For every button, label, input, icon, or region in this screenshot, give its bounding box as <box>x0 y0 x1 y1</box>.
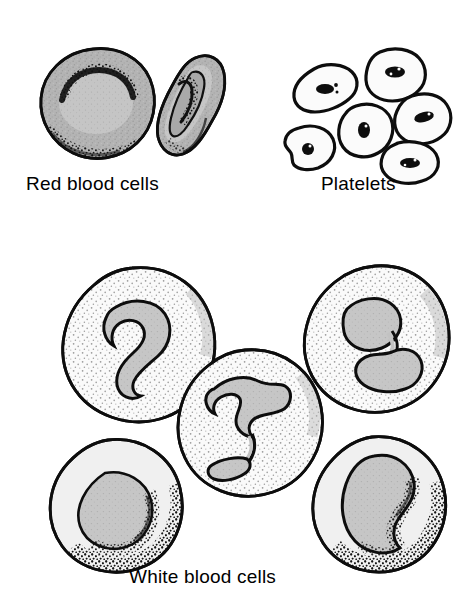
white-blood-cells-group <box>50 266 449 573</box>
white-blood-cells-caption: White blood cells <box>129 566 276 588</box>
platelets-caption: Platelets <box>321 173 396 195</box>
platelets-group <box>285 49 451 184</box>
red-blood-cells-caption: Red blood cells <box>26 173 159 195</box>
platelet-granule <box>358 122 370 138</box>
monocyte <box>313 437 446 572</box>
neutrophil-s-shaped <box>304 266 449 413</box>
neutrophil-multilobed <box>178 350 322 496</box>
platelet-3 <box>395 94 451 144</box>
platelet-granule <box>385 67 405 78</box>
blood-cells-illustration <box>0 0 467 604</box>
platelet-1 <box>294 65 357 112</box>
platelet-granule <box>316 84 334 94</box>
erythrocyte-edge-view <box>157 56 224 155</box>
platelet-5 <box>285 126 335 170</box>
platelet-granule <box>302 143 314 155</box>
blood-cells-figure: Red blood cells Platelets White blood ce… <box>0 0 467 604</box>
platelet-4 <box>339 104 393 157</box>
erythrocyte-face-view <box>41 49 155 159</box>
lymphocyte <box>50 439 185 572</box>
red-blood-cells-group <box>41 49 225 159</box>
platelet-granule <box>400 158 420 168</box>
